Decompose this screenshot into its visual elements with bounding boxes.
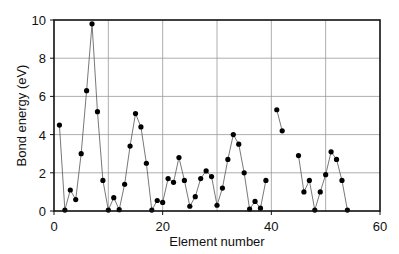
data-point-marker <box>318 189 323 194</box>
data-point-marker <box>220 185 225 190</box>
data-point-marker <box>236 142 241 147</box>
data-point-marker <box>79 151 84 156</box>
data-point-marker <box>187 204 192 209</box>
data-point-marker <box>127 143 132 148</box>
data-point-marker <box>258 206 263 211</box>
x-tick-label: 40 <box>264 219 278 234</box>
data-point-marker <box>307 178 312 183</box>
data-point-marker <box>171 180 176 185</box>
data-point-marker <box>166 176 171 181</box>
data-point-marker <box>193 194 198 199</box>
data-point-marker <box>89 21 94 26</box>
data-point-marker <box>252 199 257 204</box>
data-point-marker <box>106 207 111 212</box>
data-point-marker <box>198 176 203 181</box>
data-point-marker <box>231 132 236 137</box>
data-point-marker <box>280 128 285 133</box>
data-series <box>57 21 350 212</box>
x-axis-label: Element number <box>169 234 265 249</box>
data-point-marker <box>334 157 339 162</box>
data-point-marker <box>263 178 268 183</box>
data-point-marker <box>323 172 328 177</box>
y-tick-label: 6 <box>39 89 46 104</box>
data-point-marker <box>339 178 344 183</box>
bond-energy-chart: 0246810 0204060 Element number Bond ener… <box>0 0 399 254</box>
y-tick-label: 4 <box>39 128 46 143</box>
data-point-marker <box>149 207 154 212</box>
data-point-marker <box>144 161 149 166</box>
data-point-marker <box>242 170 247 175</box>
data-point-marker <box>155 198 160 203</box>
data-point-marker <box>62 207 67 212</box>
data-point-marker <box>73 197 78 202</box>
data-point-marker <box>214 203 219 208</box>
data-point-marker <box>182 178 187 183</box>
data-point-marker <box>68 187 73 192</box>
data-point-marker <box>100 178 105 183</box>
x-axis-ticks: 0204060 <box>50 211 387 234</box>
data-point-marker <box>204 168 209 173</box>
y-axis-ticks: 0246810 <box>32 13 54 219</box>
data-point-marker <box>160 200 165 205</box>
data-point-marker <box>301 189 306 194</box>
data-point-marker <box>345 207 350 212</box>
series-line <box>277 110 282 131</box>
data-point-marker <box>122 182 127 187</box>
data-point-marker <box>209 174 214 179</box>
y-axis-label: Bond energy (eV) <box>14 65 29 167</box>
y-tick-label: 2 <box>39 166 46 181</box>
data-point-marker <box>274 107 279 112</box>
data-point-marker <box>95 109 100 114</box>
y-tick-label: 10 <box>32 13 46 28</box>
data-point-marker <box>296 153 301 158</box>
x-tick-label: 60 <box>373 219 387 234</box>
x-tick-label: 20 <box>155 219 169 234</box>
x-tick-label: 0 <box>50 219 57 234</box>
data-point-marker <box>111 195 116 200</box>
data-point-marker <box>57 122 62 127</box>
data-point-marker <box>329 149 334 154</box>
y-tick-label: 8 <box>39 51 46 66</box>
data-point-marker <box>176 155 181 160</box>
data-point-marker <box>225 157 230 162</box>
data-point-marker <box>133 111 138 116</box>
y-tick-label: 0 <box>39 204 46 219</box>
data-point-marker <box>138 124 143 129</box>
data-point-marker <box>312 207 317 212</box>
data-point-marker <box>84 88 89 93</box>
